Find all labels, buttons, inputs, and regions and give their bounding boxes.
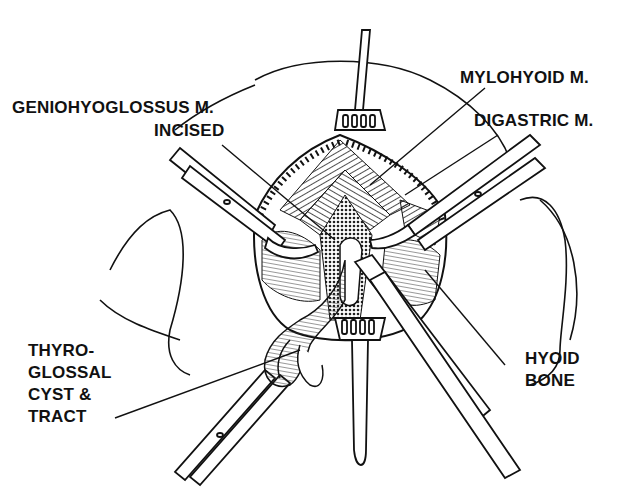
cyst-clamp xyxy=(175,370,290,485)
label-geniohyoglossus-line2: INCISED xyxy=(154,121,224,140)
label-hyoid-line1: HYOID xyxy=(525,348,580,370)
label-hyoid-bone: HYOIDBONE xyxy=(525,348,580,392)
surgical-illustration: GENIOHYOGLOSSUS M. INCISED MYLOHYOID M. … xyxy=(0,0,626,498)
label-thyroglossal-line1: THYRO- xyxy=(28,340,112,362)
label-geniohyoglossus-incised: INCISED xyxy=(154,120,224,141)
label-mylohyoid: MYLOHYOID M. xyxy=(460,67,589,88)
label-thyroglossal-line4: TRACT xyxy=(28,406,112,428)
top-retractor xyxy=(335,30,385,130)
label-thyroglossal-line3: CYST & xyxy=(28,384,112,406)
label-hyoid-line2: BONE xyxy=(525,370,580,392)
label-thyroglossal-line2: GLOSSAL xyxy=(28,362,112,384)
label-digastric: DIGASTRIC M. xyxy=(474,110,594,131)
label-geniohyoglossus-line1: GENIOHYOGLOSSUS M. xyxy=(12,98,214,117)
label-geniohyoglossus: GENIOHYOGLOSSUS M. xyxy=(12,97,214,118)
label-thyroglossal-cyst: THYRO-GLOSSALCYST &TRACT xyxy=(28,340,112,428)
bottom-retractor xyxy=(335,318,385,465)
